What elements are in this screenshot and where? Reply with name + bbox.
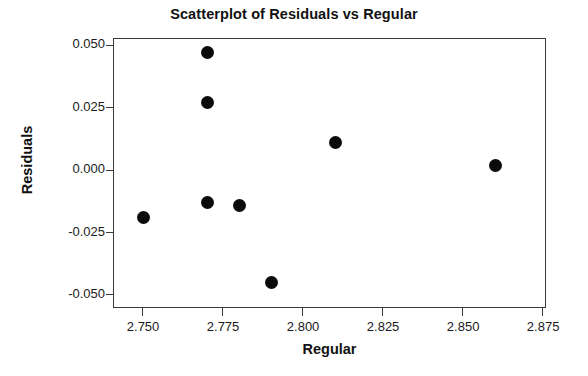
- x-tick-label: 2.875: [508, 319, 578, 334]
- y-tick-label: -0.025: [45, 224, 105, 239]
- x-tick: [542, 308, 543, 316]
- y-tick: [106, 294, 114, 295]
- x-tick-label: 2.775: [188, 319, 258, 334]
- x-tick-label: 2.850: [428, 319, 498, 334]
- x-tick: [222, 308, 223, 316]
- x-tick: [142, 308, 143, 316]
- x-axis-label: Regular: [113, 341, 546, 357]
- y-tick: [106, 45, 114, 46]
- x-tick: [382, 308, 383, 316]
- y-tick-label: 0.000: [45, 161, 105, 176]
- y-tick-label: -0.050: [45, 286, 105, 301]
- x-tick-label: 2.800: [268, 319, 338, 334]
- x-tick: [462, 308, 463, 316]
- x-tick: [302, 308, 303, 316]
- y-tick: [106, 170, 114, 171]
- x-tick-label: 2.750: [108, 319, 178, 334]
- y-tick-label: 0.050: [45, 36, 105, 51]
- x-tick-label: 2.825: [348, 319, 418, 334]
- y-tick: [106, 232, 114, 233]
- scatterplot-figure: Scatterplot of Residuals vs Regular 0.05…: [0, 0, 588, 376]
- y-tick: [106, 107, 114, 108]
- y-tick-label: 0.025: [45, 99, 105, 114]
- y-axis-label: Residuals: [19, 100, 35, 220]
- plot-area: [113, 38, 546, 308]
- page-title: Scatterplot of Residuals vs Regular: [0, 6, 588, 22]
